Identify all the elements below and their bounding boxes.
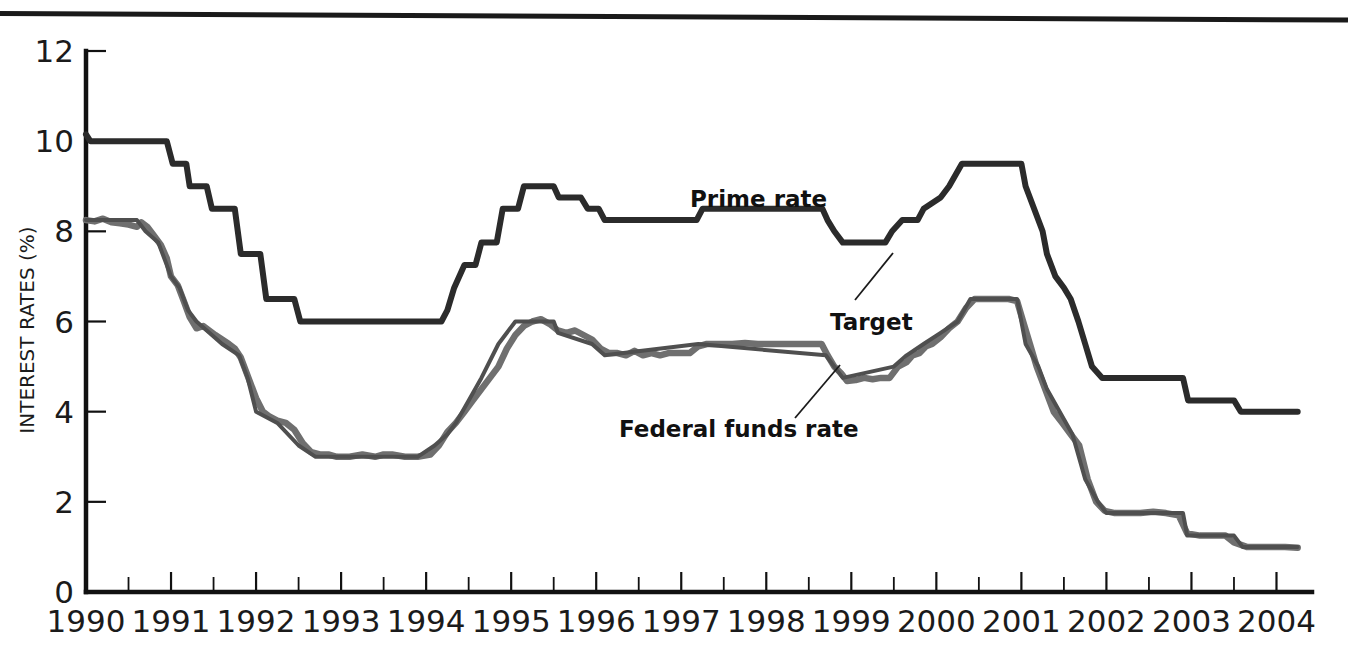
annotation-federal-funds-rate: Federal funds rate xyxy=(619,416,859,442)
annotation-target: Target xyxy=(830,309,913,335)
x-tick-label: 1991 xyxy=(132,603,211,639)
series-target xyxy=(86,220,1298,547)
x-tick-label: 1990 xyxy=(47,603,126,639)
y-tick-label: 2 xyxy=(54,484,74,520)
y-axis-ticks xyxy=(86,51,106,502)
x-axis-tick-labels: 1990199119921993199419951996199719981999… xyxy=(47,603,1316,639)
y-tick-label: 4 xyxy=(54,394,74,430)
y-tick-label: 6 xyxy=(54,304,74,340)
x-tick-label: 2003 xyxy=(1152,603,1231,639)
x-tick-label: 1994 xyxy=(387,603,466,639)
x-tick-label: 1999 xyxy=(812,603,891,639)
target-leader-line xyxy=(855,253,893,300)
x-tick-label: 2001 xyxy=(982,603,1061,639)
x-tick-label: 1997 xyxy=(642,603,721,639)
y-axis-tick-labels: 024681012 xyxy=(35,33,74,610)
y-tick-label: 10 xyxy=(35,123,74,159)
annotation-prime-rate: Prime rate xyxy=(690,186,827,212)
federal-funds-leader-line xyxy=(795,365,840,418)
y-tick-label: 12 xyxy=(35,33,74,69)
x-tick-label: 1993 xyxy=(302,603,381,639)
y-axis-title: INTEREST RATES (%) xyxy=(15,226,39,433)
x-tick-label: 1992 xyxy=(217,603,296,639)
y-tick-label: 8 xyxy=(54,213,74,249)
interest-rates-chart: 024681012 199019911992199319941995199619… xyxy=(0,0,1348,653)
chart-page: 024681012 199019911992199319941995199619… xyxy=(0,0,1348,653)
x-tick-label: 2002 xyxy=(1067,603,1146,639)
x-tick-label: 1996 xyxy=(557,603,636,639)
x-tick-label: 1995 xyxy=(472,603,551,639)
x-tick-label: 1998 xyxy=(727,603,806,639)
x-tick-label: 2000 xyxy=(897,603,976,639)
series-federal-funds-rate xyxy=(86,219,1298,548)
series-prime-rate xyxy=(86,134,1298,411)
x-axis-ticks xyxy=(86,572,1276,592)
x-tick-label: 2004 xyxy=(1237,603,1316,639)
